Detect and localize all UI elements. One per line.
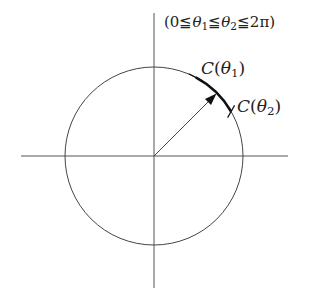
condition-label: (0≦θ1≦θ2≦2π) xyxy=(164,13,275,32)
point1-label: C(θ1) xyxy=(201,58,245,80)
arc-c-theta1-theta2 xyxy=(196,77,231,111)
circle-diagram xyxy=(0,0,323,304)
radius-arrow xyxy=(154,100,210,156)
point2-label: C(θ2) xyxy=(237,96,281,118)
